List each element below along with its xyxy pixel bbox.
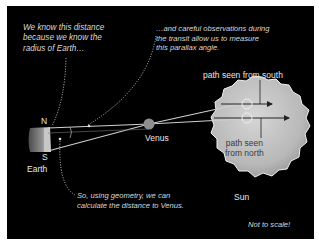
path-south-label: path seen from south bbox=[203, 70, 283, 80]
path-north-label: path seen from north bbox=[225, 138, 264, 158]
sun-disk bbox=[211, 76, 310, 177]
radius-note-line-2: because we know the bbox=[23, 33, 104, 43]
venus-label: Venus bbox=[145, 133, 169, 143]
sun-label: Sun bbox=[234, 192, 249, 202]
angle-marker bbox=[59, 138, 62, 141]
parallax-marker bbox=[88, 125, 91, 128]
geometry-note-line-1: So, using geometry, we can bbox=[77, 191, 184, 201]
path-north-label-line-2: from north bbox=[225, 148, 264, 158]
sun bbox=[211, 76, 310, 177]
leader-lines bbox=[52, 36, 156, 195]
north-label: N bbox=[41, 116, 47, 126]
observation-note-line-2: the transit allow us to measure bbox=[156, 34, 270, 44]
observation-note-line-3: this parallax angle. bbox=[156, 43, 270, 53]
earth-label: Earth bbox=[27, 164, 47, 174]
geometry-note-line-2: calculate the distance to Venus. bbox=[77, 201, 184, 211]
radius-note: We know this distance because we know th… bbox=[23, 23, 104, 54]
observation-note-line-1: …and careful observations during bbox=[156, 24, 270, 34]
south-label: S bbox=[42, 152, 48, 162]
observation-note: …and careful observations during the tra… bbox=[156, 24, 270, 53]
radius-note-line-3: radius of Earth… bbox=[23, 44, 104, 54]
geometry-note: So, using geometry, we can calculate the… bbox=[77, 191, 184, 210]
path-north-label-line-1: path seen bbox=[225, 138, 264, 148]
scale-note: Not to scale! bbox=[248, 220, 290, 230]
radius-note-line-1: We know this distance bbox=[23, 23, 104, 33]
venus-disk bbox=[144, 119, 155, 130]
earth bbox=[29, 127, 52, 152]
